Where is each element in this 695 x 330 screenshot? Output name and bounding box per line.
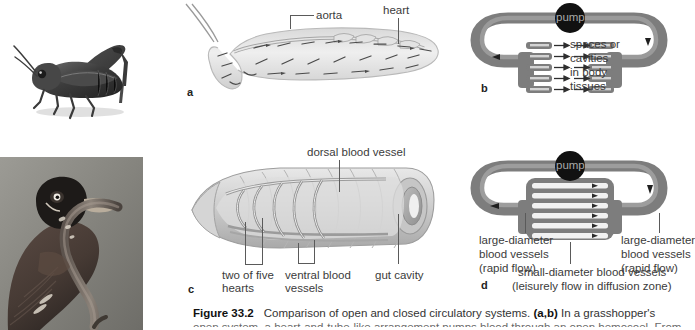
figure-caption: Figure 33.2Comparison of open and closed… <box>193 306 688 327</box>
ventral-leader-right <box>314 240 315 263</box>
caption-title: Comparison of open and closed circulator… <box>264 307 531 319</box>
robin-earthworm-photo <box>0 157 143 330</box>
aorta-leader-vertical <box>290 15 291 29</box>
label-gut-cavity: gut cavity <box>375 269 424 282</box>
gut-cavity-leader <box>398 214 399 264</box>
label-small-vessels-line1: small-diameter blood vessels <box>518 266 666 279</box>
label-heart: heart <box>383 4 409 17</box>
label-ventral-blood-vessels-line1: ventral blood <box>285 269 351 282</box>
panel-letter-b: b <box>481 82 488 94</box>
caption-ref-ab: (a,b) <box>533 307 557 319</box>
hearts-leader-right <box>262 218 263 264</box>
panel-a-diagram <box>184 2 442 106</box>
figure-number: Figure 33.2 <box>193 307 254 319</box>
label-large-left-line2: blood vessels <box>479 248 549 261</box>
heart-leader <box>398 18 399 44</box>
label-large-right-line1: large-diameter <box>621 234 695 247</box>
aorta-leader-horizontal <box>290 15 314 16</box>
grasshopper-illustration <box>2 6 152 134</box>
label-dorsal-blood-vessel: dorsal blood vessel <box>307 146 405 159</box>
grasshopper-photo <box>2 6 152 134</box>
panel-letter-a: a <box>187 86 193 98</box>
label-spaces-line4: tissues <box>570 80 606 93</box>
dorsal-vessel-leader <box>339 160 340 192</box>
robin-illustration <box>0 157 143 330</box>
label-spaces-line1: spaces or <box>570 38 620 51</box>
label-ventral-blood-vessels-line2: vessels <box>285 282 323 295</box>
small-vessel-leader <box>570 242 571 264</box>
label-aorta: aorta <box>316 9 342 22</box>
label-large-right-line2: blood vessels <box>621 248 691 261</box>
label-two-of-five-hearts-line2: hearts <box>222 282 254 295</box>
ventral-bracket <box>298 263 315 264</box>
label-pump-d: pump <box>556 159 585 172</box>
caption-lead: In a grasshopper's <box>561 307 655 319</box>
panel-letter-c: c <box>188 283 194 295</box>
label-pump-b: pump <box>556 11 585 24</box>
large-vessel-right-leader <box>659 213 660 233</box>
label-two-of-five-hearts-line1: two of five <box>222 269 274 282</box>
hearts-leader-left <box>245 222 246 264</box>
panel-letter-d: d <box>481 279 488 291</box>
label-large-left-line1: large-diameter <box>479 234 553 247</box>
label-spaces-line3: in body <box>570 66 607 79</box>
caption-line-2: open system, a heart-and-tube-like arran… <box>193 320 688 327</box>
label-small-vessels-line2: (leisurely flow in diffusion zone) <box>512 280 672 293</box>
label-spaces-line2: cavities <box>570 52 608 65</box>
hearts-bracket <box>245 264 263 265</box>
large-vessel-left-leader <box>525 213 526 233</box>
ventral-leader-left <box>298 243 299 263</box>
